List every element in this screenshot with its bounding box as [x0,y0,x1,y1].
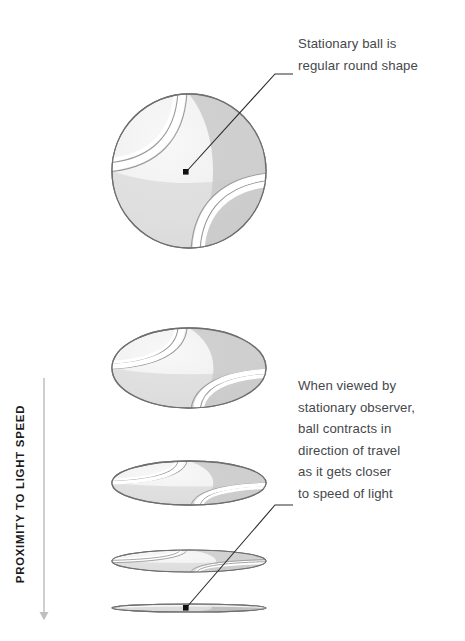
ball-ellipse-1 [106,328,272,410]
ball-ellipse-2 [106,461,272,506]
ball-ellipse-3 [106,550,272,572]
annotation-contraction: When viewed by stationary observer, ball… [298,375,415,504]
proximity-axis-label: PROXIMITY TO LIGHT SPEED [14,382,26,606]
ball-round [106,91,272,251]
leader-top-dot [183,169,189,175]
leader-bottom-dot [183,605,189,611]
annotation-stationary-ball: Stationary ball is regular round shape [298,33,418,76]
proximity-axis: PROXIMITY TO LIGHT SPEED [0,372,40,624]
relativity-figure [0,0,465,641]
